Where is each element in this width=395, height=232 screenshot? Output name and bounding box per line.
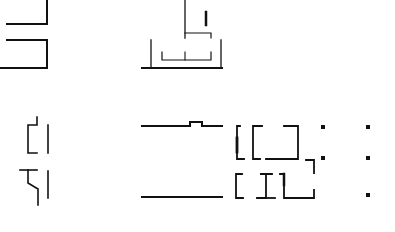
top-left-walls [0, 0, 47, 68]
bottom-right-rooms [236, 126, 314, 198]
bottom-left-walls [20, 117, 48, 205]
bottom-center-walls [142, 122, 222, 197]
top-center-walls [142, 0, 222, 68]
column-markers [321, 125, 370, 197]
floor-plan-diagram [0, 0, 395, 232]
